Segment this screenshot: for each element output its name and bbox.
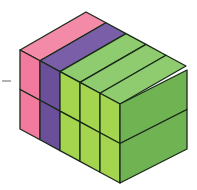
isometric-block-diagram bbox=[0, 0, 197, 190]
cuboid-drawing bbox=[0, 0, 197, 190]
